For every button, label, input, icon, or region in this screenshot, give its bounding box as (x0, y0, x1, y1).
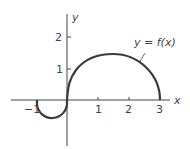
x-axis-label: x (173, 94, 181, 107)
tick-label-x3: 3 (156, 103, 163, 116)
tick-label-x-neg1: −1 (24, 103, 40, 116)
tick-label-y2: 2 (55, 31, 62, 44)
function-graph: y x 2 1 −1 1 2 3 y = f(x) (0, 0, 190, 149)
curve-label: y = f(x) (133, 36, 176, 49)
y-axis-label: y (71, 11, 79, 24)
tick-label-x2: 2 (125, 103, 132, 116)
tick-label-x1: 1 (95, 103, 102, 116)
curve-label-leader (139, 53, 145, 63)
curve-lower-semicircle (37, 100, 67, 118)
curve-upper-semicircle (67, 54, 160, 100)
tick-label-y1: 1 (56, 63, 63, 76)
